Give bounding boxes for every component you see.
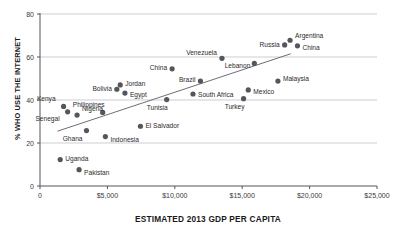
data-point-label: Venezuela [186,50,217,57]
y-tick-label: 60 [10,54,34,61]
y-tick-label: 40 [10,97,34,104]
data-point [275,78,280,83]
data-point [84,128,89,133]
data-point [61,104,66,109]
data-point-label: Philippines [73,102,105,109]
x-tick-label: $5,000 [97,192,118,199]
data-point [241,96,246,101]
data-point-label: Kenya [37,96,56,103]
x-tick-label: $15,000 [230,192,255,199]
y-tick-label: 0 [10,183,34,190]
data-point-label: El Salvador [145,123,179,130]
data-point [295,43,300,48]
data-point [219,56,224,61]
y-tick-label: 80 [10,11,34,18]
data-point [282,42,287,47]
data-point [103,134,108,139]
data-point-label: China [150,65,167,72]
data-point [252,61,257,66]
data-point [118,82,123,87]
data-point-label: Indonesia [110,136,139,143]
x-tick-label: $10,000 [162,192,187,199]
data-point-label: Senegal [35,116,59,123]
data-point [287,38,292,43]
gridlines [40,14,377,143]
y-tick-label: 20 [10,140,34,147]
data-point-label: Argentina [295,33,323,40]
data-point-label: Uganda [65,155,88,162]
data-point [198,78,203,83]
data-point-label: Pakistan [84,169,109,176]
data-point-label: Russia [260,42,280,49]
data-point [190,91,195,96]
data-point [170,66,175,71]
data-point-label: Jordan [125,81,145,88]
data-point-label: Ghana [63,135,83,142]
data-point-label: Malaysia [283,76,309,83]
scatter-chart: % WHO USE THE INTERNET ESTIMATED 2013 GD… [0,0,403,234]
data-point [138,124,143,129]
plot-area [0,0,403,234]
data-point [58,157,63,162]
data-point-label: Egypt [130,92,147,99]
data-point-label: Turkey [225,103,245,110]
data-point-label: Lebanon [225,63,251,70]
data-point [114,87,119,92]
data-point [246,87,251,92]
data-point-label: Tunisia [147,104,168,111]
data-point [76,167,81,172]
x-tick-label: 0 [38,192,42,199]
data-point [65,109,70,114]
data-point [122,91,127,96]
data-point-label: Mexico [253,89,274,96]
data-point-label: South Africa [198,92,234,99]
axis-lines [40,13,377,186]
data-point-label: Bolivia [92,86,111,93]
data-point-label: Brazil [179,77,196,84]
data-point [74,112,79,117]
x-tick-label: $20,000 [297,192,322,199]
data-point-label: China [302,45,319,52]
x-tick-label: $25,000 [364,192,389,199]
data-point [164,97,169,102]
